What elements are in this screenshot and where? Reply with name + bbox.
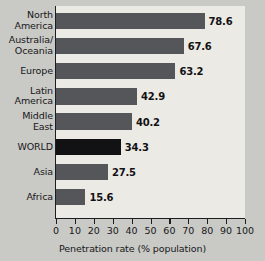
bar-row: 42.9: [56, 88, 245, 105]
x-tick-label: 60: [163, 225, 175, 236]
bar-value-label: 42.9: [141, 91, 165, 102]
x-tick: [188, 219, 189, 224]
category-label: North America: [0, 10, 53, 31]
bar: [56, 164, 108, 181]
x-axis-title: Penetration rate (% population): [0, 243, 265, 254]
category-label: Asia: [0, 167, 53, 178]
category-label: WORLD: [0, 142, 53, 153]
bar-value-label: 67.6: [188, 40, 212, 51]
x-tick-label: 30: [107, 225, 119, 236]
x-tick-label: 10: [69, 225, 81, 236]
x-tick: [226, 219, 227, 224]
bar-value-label: 78.6: [209, 15, 233, 26]
bar: [56, 189, 85, 206]
x-tick-label: 40: [126, 225, 138, 236]
bar-chart: North AmericaAustralia/ OceaniaEuropeLat…: [0, 0, 265, 261]
x-tick: [75, 219, 76, 224]
y-axis-line: [55, 6, 56, 219]
bar-row: 78.6: [56, 13, 245, 30]
x-tick-label: 100: [236, 225, 254, 236]
bar-value-label: 34.3: [125, 141, 149, 152]
bar-row: 34.3: [56, 139, 245, 156]
x-tick: [113, 219, 114, 224]
x-tick: [94, 219, 95, 224]
bar: [56, 139, 121, 156]
x-tick: [169, 219, 170, 224]
bar-row: 67.6: [56, 38, 245, 55]
x-tick: [245, 219, 246, 224]
category-label: Africa: [0, 192, 53, 203]
bar: [56, 88, 137, 105]
bar: [56, 113, 132, 130]
bar-value-label: 15.6: [89, 192, 113, 203]
x-tick: [207, 219, 208, 224]
bar-row: 40.2: [56, 113, 245, 130]
x-tick: [56, 219, 57, 224]
category-label: Latin America: [0, 86, 53, 107]
bar-value-label: 27.5: [112, 166, 136, 177]
x-tick-label: 20: [88, 225, 100, 236]
x-tick: [151, 219, 152, 224]
x-tick-label: 80: [201, 225, 213, 236]
bar: [56, 63, 175, 80]
bar: [56, 13, 205, 30]
bar-row: 27.5: [56, 164, 245, 181]
category-label: Europe: [0, 66, 53, 77]
x-tick: [132, 219, 133, 224]
bar-value-label: 40.2: [136, 116, 160, 127]
category-label: Middle East: [0, 111, 53, 132]
category-axis-labels: North AmericaAustralia/ OceaniaEuropeLat…: [0, 6, 53, 218]
bars-layer: 78.667.663.242.940.234.327.515.6: [56, 6, 245, 218]
bar-value-label: 63.2: [179, 66, 203, 77]
bar-row: 63.2: [56, 63, 245, 80]
x-tick-label: 90: [220, 225, 232, 236]
bar: [56, 38, 184, 55]
category-label: Australia/ Oceania: [0, 35, 53, 56]
x-tick-label: 50: [144, 225, 156, 236]
bar-row: 15.6: [56, 189, 245, 206]
x-tick-label: 0: [53, 225, 59, 236]
x-tick-label: 70: [182, 225, 194, 236]
